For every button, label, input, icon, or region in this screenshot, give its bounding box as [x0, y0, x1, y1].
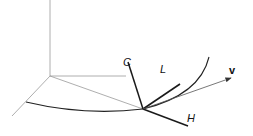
h-vector — [143, 109, 188, 126]
position-line — [50, 76, 143, 109]
label-c: C — [123, 56, 131, 68]
label-l: L — [160, 63, 166, 75]
label-v: v — [229, 64, 236, 76]
x-axis — [12, 76, 50, 116]
projected-curve — [26, 102, 143, 111]
c-vector — [128, 62, 143, 109]
v-arrow — [143, 78, 231, 109]
l-vector — [143, 84, 180, 109]
frenet-frame-diagram: C L v H — [0, 0, 253, 136]
space-curve — [143, 57, 209, 109]
label-h: H — [187, 112, 195, 124]
